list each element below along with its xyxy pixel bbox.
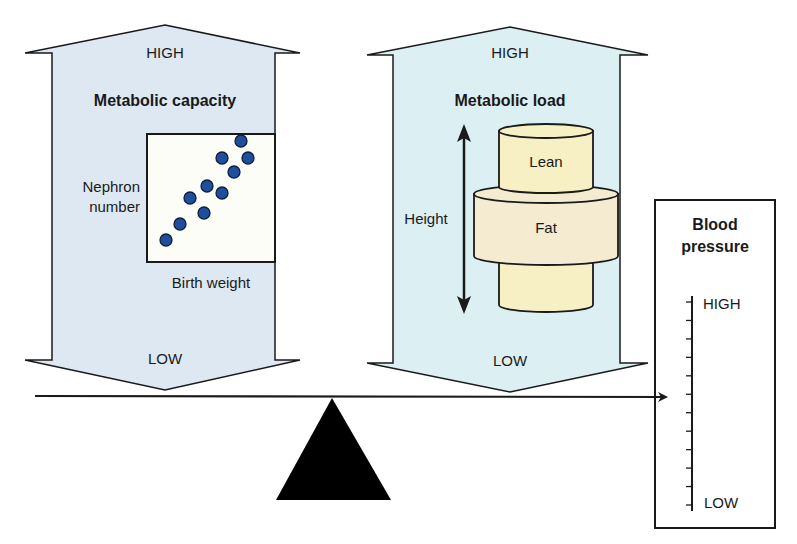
scatter-dot: [160, 234, 172, 246]
plot-x-label: Birth weight: [172, 274, 251, 291]
scatter-dot: [216, 187, 228, 199]
fulcrum-triangle-icon: [276, 398, 391, 500]
scatter-dot: [242, 152, 254, 164]
blood-pressure-gauge: Blood pressure HIGH LOW: [655, 200, 775, 528]
capacity-low-label: LOW: [148, 350, 183, 367]
capacity-title: Metabolic capacity: [94, 92, 236, 109]
lean-label: Lean: [529, 153, 562, 170]
scatter-dot: [184, 192, 196, 204]
load-title: Metabolic load: [454, 92, 565, 109]
height-label: Height: [404, 210, 448, 227]
scatter-dot: [174, 218, 186, 230]
load-low-label: LOW: [493, 352, 528, 369]
scatter-dot: [201, 180, 213, 192]
load-high-label: HIGH: [491, 44, 529, 61]
scatter-dot: [216, 152, 228, 164]
fat-label: Fat: [535, 219, 558, 236]
load-double-arrow: HIGH Metabolic load LOW Height Lean Fat: [367, 27, 648, 392]
scatter-dot: [228, 166, 240, 178]
bp-title-line2: pressure: [681, 238, 749, 255]
plot-y-label-line1: Nephron: [82, 178, 140, 195]
lean-cylinder-bottom: [499, 258, 593, 312]
capacity-double-arrow: HIGH Metabolic capacity LOW Nephron numb…: [25, 25, 300, 390]
bp-low-label: LOW: [704, 494, 739, 511]
scatter-dot: [198, 207, 210, 219]
bp-title-line1: Blood: [692, 216, 737, 233]
capacity-high-label: HIGH: [146, 44, 184, 61]
balance-beam: [35, 396, 666, 397]
diagram-canvas: HIGH Metabolic capacity LOW Nephron numb…: [0, 0, 797, 544]
bp-high-label: HIGH: [703, 295, 741, 312]
scatter-dot: [235, 135, 247, 147]
plot-y-label-line2: number: [89, 198, 140, 215]
